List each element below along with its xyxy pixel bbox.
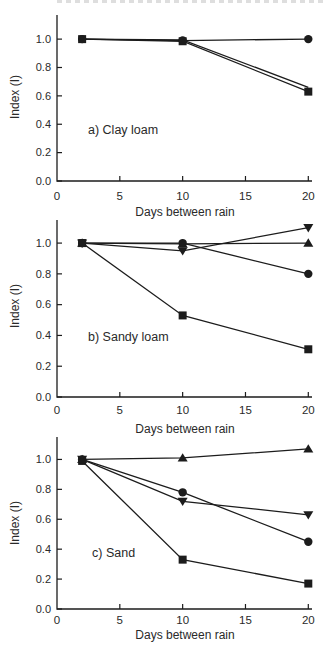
- y-tick-label: 0.6: [36, 513, 51, 525]
- y-tick-label: 0.4: [36, 543, 51, 555]
- panel-a: 0.00.20.40.60.81.005101520a) Clay loamDa…: [8, 15, 315, 219]
- x-tick-label: 0: [54, 404, 60, 416]
- y-tick-label: 0.6: [36, 90, 51, 102]
- y-tick-label: 0.2: [36, 360, 51, 372]
- y-axis-label: Index (I): [8, 75, 22, 119]
- x-tick-label: 15: [239, 190, 252, 202]
- y-tick-label: 0.4: [36, 118, 51, 130]
- marker-square: [179, 311, 187, 319]
- x-tick-label: 20: [302, 614, 315, 626]
- x-tick-label: 15: [239, 404, 252, 416]
- series-line-filled-circle: [82, 459, 308, 541]
- panel-label: a) Clay loam: [88, 123, 158, 137]
- x-axis-label: Days between rain: [135, 422, 234, 436]
- y-tick-label: 1.0: [36, 237, 51, 249]
- series-line-filled-triangle-up: [82, 449, 308, 459]
- marker-circle: [178, 488, 186, 496]
- y-tick-label: 1.0: [36, 453, 51, 465]
- x-tick-label: 15: [239, 614, 252, 626]
- x-tick-label: 20: [302, 404, 315, 416]
- charts-canvas: 0.00.20.40.60.81.005101520a) Clay loamDa…: [0, 0, 330, 654]
- panel-c: 0.00.20.40.60.81.005101520c) SandDays be…: [8, 437, 315, 642]
- marker-circle: [304, 35, 312, 43]
- y-tick-label: 0.8: [36, 483, 51, 495]
- x-tick-label: 20: [302, 190, 315, 202]
- x-tick-label: 10: [176, 404, 189, 416]
- series-line-filled-triangle-down: [82, 228, 308, 251]
- figure-page: 0.00.20.40.60.81.005101520a) Clay loamDa…: [0, 0, 330, 654]
- series-line-filled-triangle-down: [82, 459, 308, 514]
- y-tick-label: 0.6: [36, 298, 51, 310]
- marker-square: [304, 88, 312, 96]
- x-tick-label: 0: [54, 614, 60, 626]
- series-line-filled-square: [82, 461, 308, 584]
- y-tick-label: 0.0: [36, 603, 51, 615]
- marker-square: [304, 580, 312, 588]
- series-line-filled-square: [82, 39, 308, 91]
- panel-b: 0.00.20.40.60.81.005101520b) Sandy loamD…: [8, 220, 315, 436]
- marker-square: [179, 556, 187, 564]
- marker-circle: [304, 270, 312, 278]
- y-axis-label: Index (I): [8, 501, 22, 545]
- y-axis-label: Index (I): [8, 284, 22, 328]
- y-tick-label: 0.8: [36, 268, 51, 280]
- panel-label: c) Sand: [92, 546, 135, 560]
- panel-label: b) Sandy loam: [88, 330, 169, 344]
- y-tick-label: 0.4: [36, 329, 51, 341]
- y-tick-label: 0.2: [36, 146, 51, 158]
- marker-circle: [78, 35, 86, 43]
- x-tick-label: 5: [117, 190, 123, 202]
- x-tick-label: 10: [176, 614, 189, 626]
- y-tick-label: 0.0: [36, 391, 51, 403]
- x-tick-label: 10: [176, 190, 189, 202]
- marker-circle: [304, 537, 312, 545]
- series-line-filled-circle: [82, 243, 308, 274]
- marker-circle: [178, 239, 186, 247]
- marker-triangle-down: [178, 247, 188, 255]
- x-tick-label: 5: [117, 614, 123, 626]
- marker-circle: [178, 36, 186, 44]
- x-axis-label: Days between rain: [135, 628, 234, 642]
- x-axis-label: Days between rain: [135, 205, 234, 219]
- marker-square: [304, 345, 312, 353]
- y-tick-label: 0.0: [36, 175, 51, 187]
- y-tick-label: 0.2: [36, 573, 51, 585]
- y-tick-label: 1.0: [36, 33, 51, 45]
- x-tick-label: 0: [54, 190, 60, 202]
- axes: [57, 437, 312, 609]
- y-tick-label: 0.8: [36, 61, 51, 73]
- marker-triangle-up: [303, 444, 313, 452]
- marker-triangle-down: [303, 511, 313, 519]
- x-tick-label: 5: [117, 404, 123, 416]
- marker-circle: [78, 239, 86, 247]
